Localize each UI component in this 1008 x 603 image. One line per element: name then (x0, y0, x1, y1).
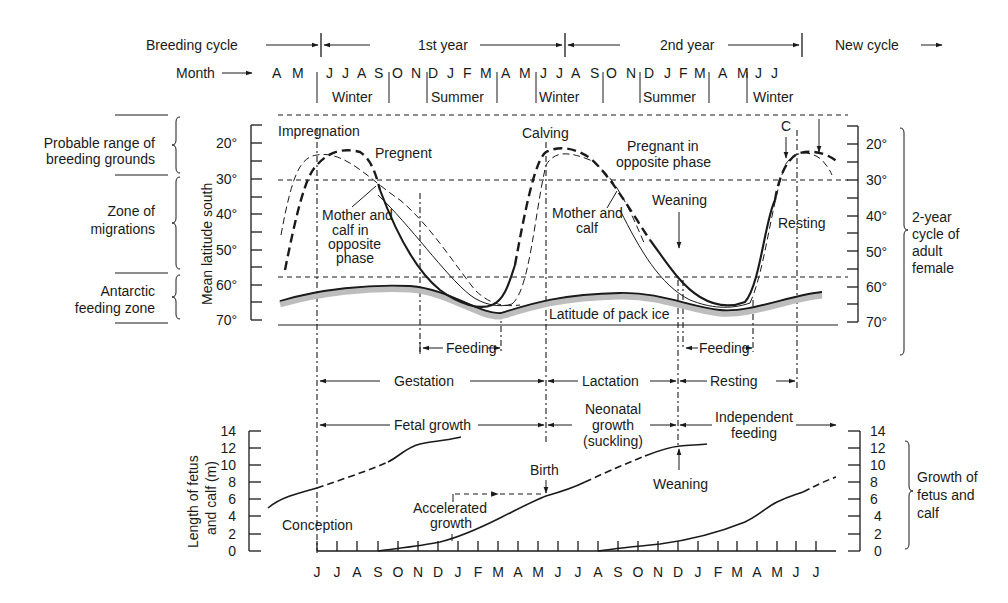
svg-text:Mother and: Mother and (322, 207, 393, 223)
month: S (373, 564, 382, 580)
whale-breeding-cycle-diagram: Breeding cycle 1st year 2nd year New cyc… (0, 0, 1008, 603)
svg-text:calf: calf (917, 505, 939, 521)
brace-icon (172, 177, 180, 269)
accelerated-growth-label: Accelerated (413, 500, 487, 516)
right-tick-labels: 20° 30° 40° 50° 60° 70° (866, 136, 887, 330)
season-winter: Winter (753, 89, 794, 105)
resting-label: Resting (778, 215, 825, 231)
latitude-chart: Mean latitude south 20° 30° 40° 50° 60° … (199, 115, 960, 553)
brace-icon (172, 275, 180, 319)
month: J (342, 65, 349, 81)
month: J (813, 564, 820, 580)
lactation-label: Lactation (582, 373, 639, 389)
svg-text:adult: adult (912, 243, 942, 259)
tick-label: 50° (866, 244, 887, 260)
zone-labels: Probable range of breeding grounds Zone … (44, 115, 180, 323)
tick-label: 20° (866, 136, 887, 152)
tick-label: 10 (870, 457, 886, 473)
tick-label: 10 (220, 457, 236, 473)
month: M (771, 564, 783, 580)
season-winter: Winter (332, 89, 373, 105)
month: S (374, 65, 383, 81)
fetal-growth-label: Fetal growth (394, 417, 471, 433)
calving-label: Calving (522, 125, 569, 141)
month: J (455, 564, 462, 580)
tick-label: 60° (216, 277, 237, 293)
month: A (718, 65, 728, 81)
prior-calf-curve (268, 488, 317, 508)
tick-label: 40° (216, 206, 237, 222)
month: A (272, 65, 282, 81)
month: A (593, 564, 603, 580)
breeding-zone-label: breeding grounds (46, 151, 155, 167)
svg-text:fetus and: fetus and (917, 487, 975, 503)
month: J (334, 564, 341, 580)
conception-label: Conception (282, 517, 353, 533)
y-axis-label: and calf (m) (203, 461, 219, 535)
svg-text:female: female (912, 260, 954, 276)
right-ticks (848, 431, 860, 551)
tick-label: 50° (216, 242, 237, 258)
month: J (555, 564, 562, 580)
tick-label: 2 (228, 526, 236, 542)
tick-label: 40° (866, 208, 887, 224)
svg-text:feeding: feeding (731, 425, 777, 441)
month: F (679, 65, 688, 81)
impregnation-label: Impregnation (278, 123, 360, 139)
month: D (644, 65, 654, 81)
growth-of-fetus-label: Growth of fetus and calf (917, 469, 978, 521)
new-cycle-label: New cycle (835, 37, 899, 53)
svg-text:growth: growth (592, 417, 634, 433)
weaning-label: Weaning (653, 476, 708, 492)
svg-text:Neonatal: Neonatal (585, 401, 641, 417)
fetus-curve (378, 482, 585, 551)
first-year-label: 1st year (418, 37, 468, 53)
svg-text:2-year: 2-year (912, 209, 952, 225)
month-axis-labels: J J A S O N D J F M A M J J A S O N D J … (314, 564, 820, 580)
weaning-label: Weaning (652, 192, 707, 208)
month: J (556, 65, 563, 81)
month-row: Month A M J J A S O N D J F M A M J J A … (176, 65, 794, 105)
month: M (492, 564, 504, 580)
month: O (392, 65, 403, 81)
y-axis-label: Mean latitude south (199, 183, 215, 305)
mother-calf-opposite-label: Mother and calf in opposite phase (322, 207, 393, 266)
breeding-zone-label: Probable range of (44, 135, 155, 151)
month-letters: A M J J A S O N D J F M A M J J A S O N … (272, 65, 778, 81)
pregnant-opposite-label: opposite phase (616, 154, 711, 170)
neonatal-growth-label: Neonatal growth (suckling) (583, 401, 643, 449)
feeding-zone-label: Antarctic (101, 283, 155, 299)
pregnent-label: Pregnent (375, 145, 432, 161)
season-winter: Winter (539, 89, 580, 105)
month: A (752, 564, 762, 580)
month: M (731, 564, 743, 580)
month: A (352, 564, 362, 580)
pack-ice-label: Latitude of pack ice (549, 306, 670, 322)
tick-label: 8 (870, 474, 878, 490)
diagram-canvas: Breeding cycle 1st year 2nd year New cyc… (0, 0, 1008, 603)
pregnant-opposite-label: Pregnant in (627, 138, 699, 154)
feeding-zone-label: feeding zone (75, 300, 155, 316)
mother-calf-label: Mother and (552, 205, 623, 221)
tick-label: 0 (228, 543, 236, 559)
svg-text:Independent: Independent (715, 409, 793, 425)
month: J (755, 65, 762, 81)
tick-label: 14 (870, 423, 886, 439)
month: J (575, 564, 582, 580)
migration-zone-label: migrations (90, 221, 155, 237)
tick-label: 20° (216, 135, 237, 151)
brace-icon (900, 128, 908, 355)
season-summer: Summer (643, 89, 696, 105)
independent-feeding-label: Independent feeding (715, 409, 793, 441)
season-summer: Summer (431, 89, 484, 105)
accelerated-growth-label: growth (430, 515, 472, 531)
left-ticks (249, 431, 261, 551)
month: O (633, 564, 644, 580)
phase-bars: Feeding Feeding Gestation Lactation Rest… (320, 340, 836, 449)
resting-phase-label: Resting (710, 373, 757, 389)
left-tick-labels: 20° 30° 40° 50° 60° 70° (216, 135, 237, 328)
month: N (653, 564, 663, 580)
leader-line (352, 186, 376, 207)
tick-label: 12 (870, 440, 886, 456)
svg-text:phase: phase (336, 250, 374, 266)
